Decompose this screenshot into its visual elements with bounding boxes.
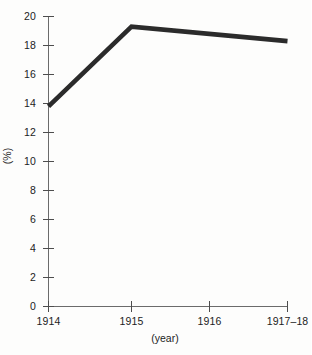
y-tick-label-16: 16: [14, 69, 36, 80]
y-tick-label-2: 2: [14, 272, 36, 283]
y-tick-label-4: 4: [14, 243, 36, 254]
x-axis-title: (year): [135, 332, 195, 344]
y-tick-label-10: 10: [14, 156, 36, 167]
y-tick-label-12: 12: [14, 127, 36, 138]
x-tick-label-1914: 1914: [19, 316, 79, 327]
x-tick-label-1916: 1916: [180, 316, 240, 327]
y-tick-label-18: 18: [14, 40, 36, 51]
chart-plot-area: [0, 0, 311, 355]
y-tick-label-8: 8: [14, 185, 36, 196]
y-tick-label-20: 20: [14, 11, 36, 22]
line-chart: 0 2 4 6 8 10 12 14 16 18 20 1914 1915 19…: [0, 0, 311, 355]
y-tick-label-14: 14: [14, 98, 36, 109]
y-tick-label-0: 0: [14, 301, 36, 312]
y-axis-title: (%): [1, 138, 13, 174]
series-line-primary: [49, 27, 288, 107]
y-tick-label-6: 6: [14, 214, 36, 225]
x-tick-label-1915: 1915: [102, 316, 162, 327]
x-tick-label-1917-18: 1917–18: [258, 316, 312, 327]
